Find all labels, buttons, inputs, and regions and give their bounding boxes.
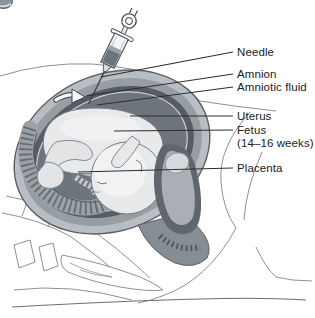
vertebra-shape [39, 243, 58, 271]
thigh-outline [256, 247, 312, 281]
vertebra-shape [14, 240, 35, 268]
label-amniotic-fluid: Amniotic fluid [237, 81, 307, 94]
label-needle: Needle [237, 46, 274, 59]
label-amnion: Amnion [237, 68, 277, 81]
label-placenta: Placenta [237, 162, 283, 175]
label-fetus-gestational-age: (14–16 weeks) [237, 137, 314, 150]
coccyx-shape [61, 255, 163, 291]
amniocentesis-diagram: Needle Amnion Amniotic fluid Uterus Fetu… [0, 0, 315, 318]
label-uterus: Uterus [237, 110, 271, 123]
table-line [12, 298, 306, 307]
label-fetus: Fetus [237, 124, 266, 137]
corner-fragment-icon [0, 0, 13, 9]
pelvic-floor-line [14, 288, 132, 300]
